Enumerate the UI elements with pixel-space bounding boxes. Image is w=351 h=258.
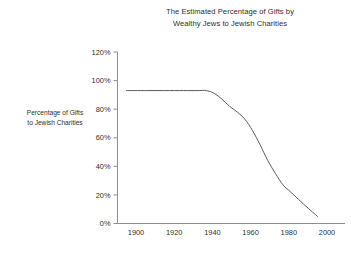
x-axis-tick-label: 1960 — [242, 228, 258, 237]
x-axis-tick-label: 1920 — [166, 228, 182, 237]
y-axis-tick-label: 80% — [96, 105, 111, 114]
x-axis-tick-label: 1980 — [281, 228, 297, 237]
x-axis-tick-label: 1900 — [128, 228, 144, 237]
y-axis-tick-group: 120%100%80%60%40%20%0% — [92, 48, 118, 229]
x-axis-tick-label: 2000 — [319, 228, 335, 237]
chart-plot-area: 120%100%80%60%40%20%0% 19001920194019601… — [0, 0, 351, 258]
data-series-line — [126, 90, 317, 216]
y-axis-tick-label: 40% — [96, 162, 111, 171]
y-axis-tick-label: 120% — [92, 48, 111, 57]
x-axis-tick-group: 190019201940196019802000 — [128, 228, 335, 237]
y-axis-tick-label: 20% — [96, 191, 111, 200]
y-axis-tick-label: 60% — [96, 133, 111, 142]
y-axis-tick-label: 100% — [92, 76, 111, 85]
x-axis-tick-label: 1940 — [204, 228, 220, 237]
y-axis-tick-label: 0% — [100, 219, 111, 228]
chart-figure: The Estimated Percentage of Gifts by Wea… — [0, 0, 351, 258]
